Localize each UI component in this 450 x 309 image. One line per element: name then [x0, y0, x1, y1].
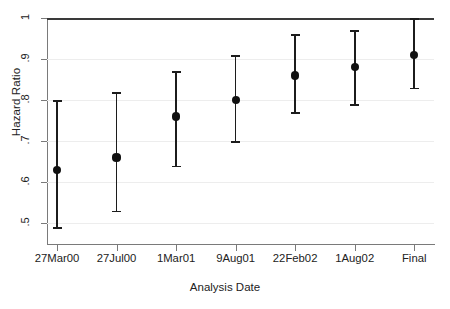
gridline [47, 182, 434, 183]
x-tick-label: 27Jul00 [97, 252, 137, 264]
y-tick-label: .7 [19, 127, 31, 153]
ci-upper-cap [112, 92, 121, 94]
x-tick-mark [57, 245, 58, 251]
ci-upper-cap [291, 34, 300, 36]
ci-upper-cap [350, 30, 359, 32]
hazard-ratio-chart: Hazard Ratio .5.6.7.8.91 27Mar0027Jul001… [0, 0, 450, 309]
ci-upper-cap [53, 100, 62, 102]
x-tick-label: 27Mar00 [35, 252, 80, 264]
ci-upper-cap [410, 18, 419, 20]
x-tick-label: 1Mar01 [157, 252, 195, 264]
data-point-marker [291, 71, 299, 79]
x-axis-title: Analysis Date [0, 281, 450, 293]
x-tick-label: Final [402, 252, 427, 264]
y-tick-label: 1 [19, 4, 31, 30]
x-tick-mark [117, 245, 118, 251]
y-tick-label: .5 [19, 209, 31, 235]
ci-lower-cap [291, 112, 300, 114]
data-point-marker [410, 51, 418, 59]
x-tick-label: 9Aug01 [216, 252, 255, 264]
x-tick-mark [236, 245, 237, 251]
gridline [47, 223, 434, 224]
y-tick-label: .9 [19, 45, 31, 71]
ci-lower-cap [172, 166, 181, 168]
x-tick-mark [414, 245, 415, 251]
ci-lower-cap [410, 88, 419, 90]
data-point-marker [112, 153, 120, 161]
data-point-marker [172, 112, 180, 120]
data-point-marker [53, 166, 61, 174]
data-point-marker [232, 96, 240, 104]
confidence-interval-line [56, 100, 58, 227]
x-tick-mark [176, 245, 177, 251]
x-tick-mark [355, 245, 356, 251]
ci-lower-cap [350, 104, 359, 106]
y-tick-label: .8 [19, 86, 31, 112]
ci-upper-cap [172, 71, 181, 73]
x-tick-label: 1Aug02 [335, 252, 374, 264]
confidence-interval-line [116, 92, 118, 211]
x-tick-label: 22Feb02 [273, 252, 318, 264]
reference-line [47, 18, 434, 20]
y-tick-label: .6 [19, 168, 31, 194]
gridline [47, 141, 434, 142]
x-tick-mark [295, 245, 296, 251]
gridline [47, 100, 434, 101]
x-axis-line [47, 244, 435, 245]
ci-upper-cap [231, 55, 240, 57]
plot-area [47, 18, 434, 244]
ci-lower-cap [53, 227, 62, 229]
ci-lower-cap [112, 211, 121, 213]
ci-lower-cap [231, 141, 240, 143]
data-point-marker [351, 63, 359, 71]
gridline [47, 59, 434, 60]
